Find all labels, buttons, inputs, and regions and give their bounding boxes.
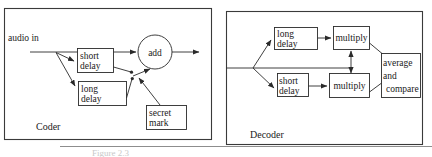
coder-short-delay-line-1: delay (80, 61, 101, 71)
coder-node-long-delay: long delay (79, 82, 127, 106)
coder-long-delay-line-0: long (81, 84, 98, 94)
figure-root: audio in short delay long delay (0, 0, 432, 157)
coder-node-short-delay: short delay (78, 49, 114, 73)
decoder-short-delay-line-0: short (279, 76, 298, 86)
decoder-node-multiply-bottom: multiply (330, 74, 370, 98)
coder-secret-mark-line-1: mark (149, 118, 169, 128)
decoder-long-delay-line-1: delay (277, 39, 298, 49)
coder-node-secret-mark: secret mark (147, 106, 187, 130)
coder-long-delay-line-1: delay (81, 94, 102, 104)
coder-panel: audio in short delay long delay (5, 9, 212, 140)
decoder-average-line-2: compare (386, 84, 419, 94)
coder-node-add: add (138, 35, 172, 69)
decoder-long-delay-line-0: long (277, 29, 294, 39)
coder-secret-mark-line-0: secret (149, 108, 172, 118)
junction-dot-long (131, 77, 134, 80)
coder-short-delay-line-0: short (80, 51, 99, 61)
decoder-node-multiply-top: multiply (334, 27, 370, 50)
decoder-multiply-top-label: multiply (335, 33, 367, 43)
coder-audio-in-label: audio in (8, 33, 39, 43)
decoder-node-short-delay: short delay (278, 74, 309, 97)
decoder-node-average-and-compare: average and compare (382, 54, 421, 98)
coder-panel-label: Coder (36, 121, 61, 132)
decoder-node-long-delay: long delay (275, 28, 318, 50)
figure-caption: Figure 2.3 (92, 148, 129, 157)
decoder-multiply-bottom-label: multiply (333, 81, 365, 91)
decoder-panel-label: Decoder (250, 129, 285, 140)
block-diagram: audio in short delay long delay (0, 0, 432, 157)
decoder-short-delay-line-1: delay (279, 86, 300, 96)
decoder-average-line-0: average (383, 58, 413, 68)
decoder-average-line-1: and (383, 71, 397, 81)
junction-dot-short (130, 71, 133, 74)
coder-add-label: add (148, 48, 162, 58)
decoder-panel: long delay short delay multiply multi (227, 12, 423, 145)
